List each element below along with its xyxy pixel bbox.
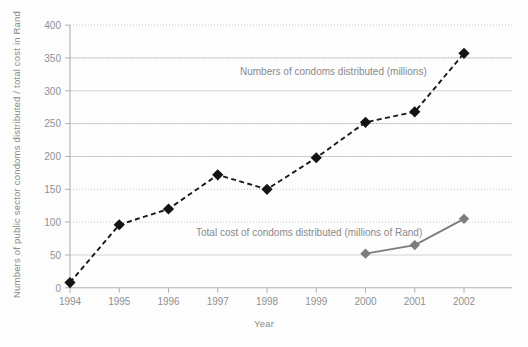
x-axis-ticks-and-labels: 199419951996199719981999200020012002	[59, 288, 476, 307]
y-axis-tick-labels: 400 350 300 250 200 150 100 50 0	[44, 20, 61, 294]
y-axis-ticks	[65, 25, 70, 288]
chart-container: Numbers of public sector condoms distrib…	[0, 0, 528, 347]
data-point	[410, 240, 420, 250]
x-tick-label-1994: 1994	[59, 296, 82, 307]
data-point	[212, 169, 223, 180]
y-tick-label-300: 300	[44, 86, 61, 97]
y-tick-label-0: 0	[55, 283, 61, 294]
data-point	[360, 248, 370, 258]
annotation-numbers-distributed: Numbers of condoms distributed (millions…	[240, 66, 427, 77]
x-tick-label-2002: 2002	[453, 296, 476, 307]
x-axis-title: Year	[254, 318, 274, 329]
x-tick-label-2000: 2000	[354, 296, 377, 307]
data-point	[261, 184, 272, 195]
data-point	[163, 203, 174, 214]
y-tick-label-200: 200	[44, 151, 61, 162]
x-tick-label-1998: 1998	[256, 296, 279, 307]
data-point	[360, 117, 371, 128]
series-line-numbers-distributed	[70, 53, 464, 282]
y-tick-label-400: 400	[44, 20, 61, 31]
x-tick-label-1999: 1999	[305, 296, 328, 307]
x-tick-label-2001: 2001	[404, 296, 427, 307]
y-axis-title: Numbers of public sector condoms distrib…	[11, 11, 22, 298]
data-point	[64, 277, 75, 288]
annotation-total-cost: Total cost of condoms distributed (milli…	[196, 227, 422, 238]
y-tick-label-250: 250	[44, 118, 61, 129]
x-tick-label-1996: 1996	[157, 296, 180, 307]
x-tick-label-1997: 1997	[207, 296, 230, 307]
line-chart-svg: Numbers of public sector condoms distrib…	[0, 0, 528, 347]
x-tick-label-1995: 1995	[108, 296, 131, 307]
y-tick-label-150: 150	[44, 184, 61, 195]
y-tick-label-100: 100	[44, 217, 61, 228]
y-tick-label-50: 50	[50, 250, 62, 261]
y-tick-label-350: 350	[44, 53, 61, 64]
series-markers-numbers-distributed	[64, 48, 469, 288]
gridlines	[70, 25, 512, 255]
